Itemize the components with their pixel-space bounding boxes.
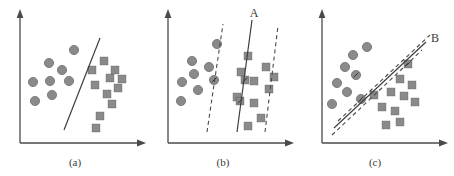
data-point-square	[250, 77, 258, 85]
data-point-circle	[64, 76, 73, 85]
data-point-square	[378, 103, 386, 111]
data-point-circle	[342, 87, 351, 96]
data-point-square	[111, 66, 119, 74]
data-point-square	[237, 68, 245, 76]
data-point-circle	[69, 45, 78, 54]
data-point-circle	[176, 96, 185, 105]
data-point-square	[88, 66, 96, 74]
y-axis-arrow	[319, 9, 326, 18]
boundary-label-a: A	[250, 6, 259, 20]
data-point-square	[400, 92, 408, 100]
x-axis-arrow	[137, 140, 146, 147]
square-markers-a	[88, 57, 126, 132]
y-axis-arrow	[165, 9, 172, 18]
panel-b: A (b)	[148, 0, 298, 176]
panel-caption-a: (a)	[0, 156, 150, 168]
data-point-circle	[193, 85, 202, 94]
x-axis-arrow	[439, 140, 448, 147]
data-point-circle	[327, 99, 336, 108]
data-point-square	[396, 118, 404, 126]
x-axis-arrow	[285, 140, 294, 147]
axes-a	[17, 9, 146, 146]
panel-c-plot: B	[300, 0, 454, 176]
panel-b-plot: A	[148, 0, 298, 176]
data-point-square	[114, 84, 122, 92]
data-point-square	[265, 85, 273, 93]
data-point-circle	[44, 58, 53, 67]
data-point-circle	[189, 69, 198, 78]
data-point-square	[108, 100, 116, 108]
circle-markers-b	[176, 39, 221, 105]
panel-caption-c: (c)	[300, 156, 450, 168]
data-point-square	[91, 81, 99, 89]
panel-a: (a)	[0, 0, 150, 176]
y-axis-arrow	[17, 9, 24, 18]
data-point-square	[100, 57, 108, 65]
data-point-circle	[187, 56, 196, 65]
data-point-circle	[30, 96, 39, 105]
data-point-square	[118, 75, 126, 83]
data-point-square	[391, 107, 399, 115]
data-point-circle	[332, 78, 341, 87]
panel-caption-b: (b)	[148, 156, 298, 168]
data-point-circle	[177, 77, 186, 86]
circle-markers-a	[28, 45, 78, 105]
data-point-square	[244, 122, 252, 130]
data-point-circle	[28, 77, 37, 86]
data-point-square	[382, 121, 390, 129]
square-markers-c	[370, 60, 419, 129]
data-point-circle	[348, 50, 357, 59]
data-point-circle	[57, 65, 66, 74]
data-point-circle	[204, 62, 213, 71]
data-point-circle	[362, 42, 371, 51]
data-point-square	[411, 98, 419, 106]
data-point-circle	[45, 76, 54, 85]
data-point-square	[103, 90, 111, 98]
data-point-circle	[340, 62, 349, 71]
data-point-square	[250, 99, 258, 107]
data-point-square	[408, 81, 416, 89]
data-point-square	[92, 124, 100, 132]
data-point-square	[96, 112, 104, 120]
data-point-square	[257, 114, 265, 122]
boundary-label-b: B	[431, 31, 439, 45]
data-point-square	[262, 63, 270, 71]
panel-c: B (c)	[300, 0, 450, 176]
data-point-square	[106, 74, 114, 82]
svm-margin-figure: (a)	[0, 0, 454, 176]
panel-a-plot	[0, 0, 150, 176]
data-point-square	[387, 88, 395, 96]
data-point-square	[396, 75, 404, 83]
square-markers-b	[233, 52, 278, 130]
data-point-circle	[47, 90, 56, 99]
